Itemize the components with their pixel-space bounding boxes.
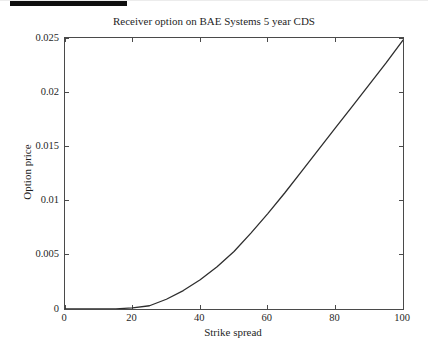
x-tick-label: 20 — [112, 312, 152, 324]
y-axis-label: Option price — [20, 112, 34, 232]
y-tick-label: 0.01 — [0, 193, 59, 206]
chart-title: Receiver option on BAE Systems 5 year CD… — [0, 14, 428, 28]
matlab-figure: Receiver option on BAE Systems 5 year CD… — [0, 0, 428, 351]
y-tick-label: 0.015 — [0, 139, 59, 152]
y-tick-label: 0 — [0, 302, 59, 315]
top-edge-artifact-bar — [10, 1, 127, 6]
x-tick-label: 60 — [247, 312, 287, 324]
x-axis-label: Strike spread — [64, 326, 402, 339]
y-tick-label: 0.005 — [0, 247, 59, 260]
plot-area — [64, 37, 404, 310]
x-tick-label: 80 — [314, 312, 354, 324]
plot-canvas — [65, 38, 403, 309]
x-tick-label: 100 — [382, 312, 422, 324]
price-curve — [65, 40, 403, 309]
y-tick-label: 0.02 — [0, 85, 59, 98]
x-tick-label: 40 — [179, 312, 219, 324]
y-tick-label: 0.025 — [0, 31, 59, 44]
